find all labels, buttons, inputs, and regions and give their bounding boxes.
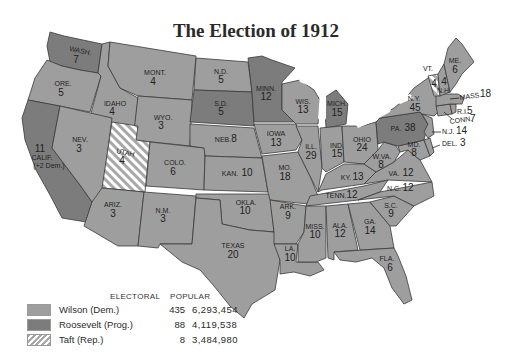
legend-popular: 4,119,538: [192, 319, 237, 330]
legend-candidate: Wilson (Dem.): [59, 304, 119, 315]
legend-electoral: 88: [145, 319, 185, 330]
votes-ark: 9: [285, 210, 291, 221]
votes-ri: 5: [467, 105, 473, 116]
state-me[interactable]: [444, 38, 474, 92]
votes-ohio: 24: [356, 142, 368, 153]
label-iowa: IOWA: [267, 130, 286, 137]
label-kan: KAN.: [222, 170, 238, 177]
label-nc: N.C.: [387, 185, 401, 192]
label-pa: PA.: [391, 125, 402, 132]
legend-row-wilson: Wilson (Dem.) 435 6,293,454: [27, 304, 247, 318]
legend-popular: 3,484,980: [192, 334, 238, 345]
label-mich: MICH.: [327, 100, 347, 107]
label-mo: MO.: [278, 164, 291, 171]
votes-sd: 5: [218, 106, 224, 117]
wilson-swatch: [27, 304, 51, 316]
votes-wva: 8: [378, 159, 384, 170]
label-nj: N.J.: [442, 128, 455, 135]
votes-me: 6: [452, 64, 458, 75]
votes-miss: 10: [309, 229, 321, 240]
lake-michigan: [318, 90, 326, 126]
label-ny: N.Y.: [408, 95, 421, 102]
label-texas: TEXAS: [222, 242, 245, 249]
votes-nev: 3: [76, 143, 82, 154]
votes-ny: 45: [409, 102, 421, 113]
votes-pa: 38: [404, 122, 416, 133]
votes-ore: 5: [58, 87, 64, 98]
label-ky: KY.: [341, 174, 351, 181]
votes-colo: 6: [170, 166, 176, 177]
taft-swatch: [27, 334, 51, 346]
legend-header-popular: POPULAR: [170, 292, 210, 301]
votes-ill: 29: [305, 150, 317, 161]
votes-sc: 9: [388, 208, 394, 219]
votes-ind: 15: [331, 148, 343, 159]
label-ore: ORE.: [54, 80, 71, 87]
label-fla: FLA.: [380, 255, 395, 262]
votes-wash: 7: [73, 54, 79, 65]
label-calif: CALIF.: [31, 154, 52, 161]
label-idaho: IDAHO: [104, 100, 127, 107]
label-nev: NEV.: [72, 136, 88, 143]
votes-nc: 12: [402, 182, 414, 193]
votes-va: 12: [402, 167, 414, 178]
votes-nj: 14: [456, 125, 468, 136]
votes-mont: 4: [150, 76, 156, 87]
legend-electoral: 8: [145, 334, 185, 345]
legend-candidate: Taft (Rep.): [59, 334, 103, 345]
label-del: DEL.: [442, 140, 458, 147]
votes-wis: 13: [297, 104, 309, 115]
votes-nd: 5: [218, 74, 224, 85]
votes-mass: 18: [480, 88, 492, 99]
votes-nh: 4: [441, 76, 447, 87]
legend-electoral: 435: [145, 304, 185, 315]
label-ill: ILL.: [305, 143, 317, 150]
votes-minn: 12: [260, 91, 272, 102]
votes-wyo: 3: [158, 120, 164, 131]
votes-ky: 13: [352, 171, 364, 182]
votes-calif: 11: [35, 143, 46, 154]
label-vt: VT.: [423, 65, 433, 72]
votes-texas: 20: [227, 249, 239, 260]
label-mass: MASS.: [459, 91, 482, 101]
votes-neb: 8: [231, 133, 237, 144]
label-la: LA.: [285, 245, 296, 252]
votes-okla: 10: [239, 205, 251, 216]
label-nh: N.H.: [437, 87, 451, 94]
label-me: ME.: [449, 57, 462, 64]
votes-idaho: 4: [109, 106, 115, 117]
votes-kan: 10: [241, 167, 253, 178]
label-colo: COLO.: [164, 159, 186, 166]
leader-del: [432, 145, 440, 148]
roosevelt-swatch: [27, 319, 51, 331]
state-fla[interactable]: [334, 248, 412, 304]
votes-iowa: 13: [270, 137, 282, 148]
label-ga: GA.: [364, 218, 376, 225]
legend-candidate: Roosevelt (Prog.): [59, 319, 133, 330]
votes-mo: 18: [279, 171, 291, 182]
lake-superior: [296, 60, 352, 86]
note-calif: (+2 Dem.): [33, 162, 64, 170]
votes-fla: 6: [387, 262, 393, 273]
label-ark: ARK.: [280, 203, 296, 210]
legend-row-taft: Taft (Rep.) 8 3,484,980: [27, 334, 247, 348]
label-va: VA.: [389, 170, 400, 177]
votes-mich: 15: [331, 107, 343, 118]
votes-md: 8: [411, 147, 417, 158]
votes-nm: 3: [160, 213, 166, 224]
votes-la: 10: [284, 252, 296, 263]
label-ariz: ARIZ.: [104, 201, 122, 208]
label-mont: MONT.: [144, 69, 166, 76]
votes-ga: 14: [364, 225, 376, 236]
votes-tenn: 12: [346, 189, 358, 200]
label-neb: NEB.: [215, 136, 231, 143]
label-tenn: TENN.: [326, 192, 347, 199]
votes-del: 3: [460, 137, 466, 148]
legend-row-roosevelt: Roosevelt (Prog.) 88 4,119,538: [27, 319, 247, 333]
votes-utah: 4: [119, 155, 125, 166]
votes-ariz: 3: [110, 208, 116, 219]
legend-header-electoral: ELECTORAL: [110, 292, 160, 301]
legend-popular: 6,293,454: [192, 304, 238, 315]
state-nm[interactable]: [138, 192, 196, 248]
votes-ala: 12: [334, 228, 346, 239]
